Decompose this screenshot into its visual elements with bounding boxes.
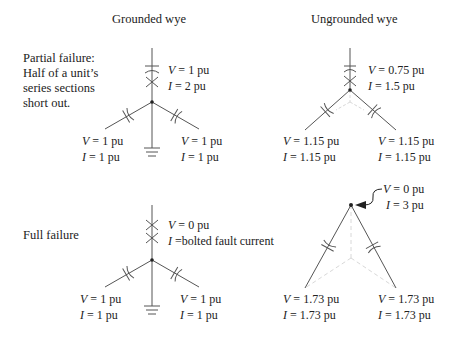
capacitor-icon [171,267,182,282]
label-grounded-partial-left: V = 1 pu I = 1 pu [82,134,123,165]
ground-icon [144,306,160,314]
neutral-node [150,100,154,104]
label-grounded-full-top: V = 0 pu I =bolted fault current [168,218,274,249]
neutral-node [150,258,154,262]
capacitor-icon [123,108,134,123]
label-grounded-full-right: V = 1 pu I = 1 pu [180,292,221,323]
label-ungrounded-partial-right: V = 1.15 pu I = 1.15 pu [378,134,434,165]
capacitor-icon [171,109,182,124]
label-grounded-partial-top: V = 1 pu I = 2 pu [168,63,209,94]
capacitor-icon [366,242,381,253]
capacitor-icon [321,240,336,251]
neutral-node [349,203,353,207]
capacitor-icon [368,104,381,118]
label-ungrounded-full-apex: V = 0 pu I = 3 pu [383,182,424,213]
ground-icon [144,148,160,156]
label-ungrounded-full-right: V = 1.73 pu I = 1.73 pu [378,292,434,323]
label-grounded-partial-right: V = 1 pu I = 1 pu [181,134,222,165]
faded-neutral-lines [336,90,364,110]
diagram-canvas [0,0,458,337]
label-ungrounded-full-left: V = 1.73 pu I = 1.73 pu [283,292,339,323]
label-grounded-full-left: V = 1 pu I = 1 pu [80,292,121,323]
capacitor-icon [123,266,134,281]
faded-original-wye [305,205,396,288]
label-ungrounded-partial-top: V = 0.75 pu I = 1.5 pu [368,63,424,94]
neutral-node [348,88,352,92]
label-ungrounded-partial-left: V = 1.15 pu I = 1.15 pu [283,134,339,165]
callout-arrow-icon [355,189,382,209]
